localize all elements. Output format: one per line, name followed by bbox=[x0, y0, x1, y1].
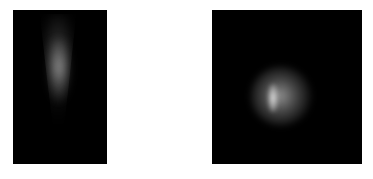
spot-core bbox=[268, 84, 278, 112]
streak-core bbox=[47, 40, 71, 110]
spot-glow bbox=[250, 66, 312, 126]
right-intensity-image bbox=[212, 10, 362, 164]
left-intensity-image bbox=[13, 10, 107, 164]
